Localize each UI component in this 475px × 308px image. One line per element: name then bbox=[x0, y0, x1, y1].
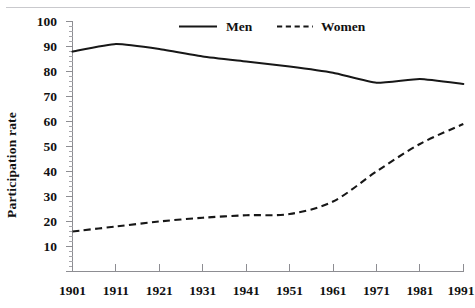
x-tick-label: 1931 bbox=[189, 283, 216, 298]
x-tick-label: 1971 bbox=[363, 283, 390, 298]
y-axis-tick-labels: 100 90 80 70 60 50 40 30 20 10 bbox=[37, 14, 58, 254]
y-tick-label: 100 bbox=[37, 14, 58, 29]
x-tick-label: 1981 bbox=[406, 283, 433, 298]
x-tick-label: 1911 bbox=[103, 283, 130, 298]
line-chart-canvas: Participation rate 100 90 80 70 60 50 40… bbox=[0, 0, 475, 308]
x-tick-label: 1951 bbox=[276, 283, 303, 298]
y-tick-label: 30 bbox=[44, 189, 58, 204]
legend-label-women: Women bbox=[321, 19, 366, 34]
y-tick-label: 10 bbox=[44, 239, 58, 254]
x-tick-label: 1991 bbox=[448, 283, 475, 298]
y-tick-label: 40 bbox=[44, 164, 58, 179]
legend-label-men: Men bbox=[226, 19, 253, 34]
x-tick-label: 1941 bbox=[233, 283, 260, 298]
y-tick-label: 60 bbox=[44, 114, 58, 129]
x-axis-major-ticks bbox=[73, 264, 464, 272]
y-tick-label: 90 bbox=[44, 39, 58, 54]
y-axis-title: Participation rate bbox=[4, 112, 19, 218]
x-axis-tick-labels: 1901 1911 1921 1931 1941 1951 1961 1971 … bbox=[59, 283, 475, 298]
x-tick-label: 1921 bbox=[146, 283, 173, 298]
y-axis-major-ticks bbox=[66, 22, 73, 272]
y-tick-label: 50 bbox=[44, 139, 58, 154]
x-tick-label: 1901 bbox=[59, 283, 86, 298]
y-tick-label: 20 bbox=[44, 214, 58, 229]
y-tick-label: 80 bbox=[44, 64, 58, 79]
x-tick-label: 1961 bbox=[320, 283, 347, 298]
chart-legend: Men Women bbox=[179, 19, 366, 34]
y-tick-label: 70 bbox=[44, 89, 58, 104]
series-line-women bbox=[73, 124, 464, 232]
series-line-men bbox=[73, 44, 464, 84]
chart-figure: Participation rate 100 90 80 70 60 50 40… bbox=[0, 0, 475, 308]
